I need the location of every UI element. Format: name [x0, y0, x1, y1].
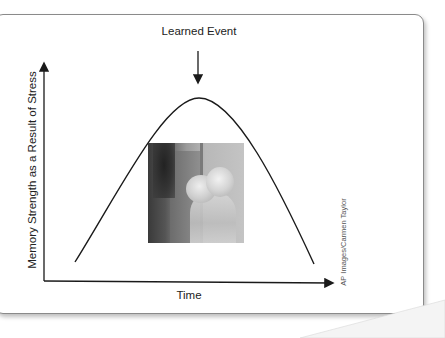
photo-credit: AP Images/Carmen Taylor — [339, 198, 348, 285]
x-axis — [44, 281, 332, 283]
learned-event-label: Learned Event — [0, 25, 398, 37]
x-axis-label: Time — [0, 289, 378, 301]
y-axis-label: Memory Strength as a Result of Stress — [26, 71, 38, 269]
event-photo — [148, 143, 244, 243]
